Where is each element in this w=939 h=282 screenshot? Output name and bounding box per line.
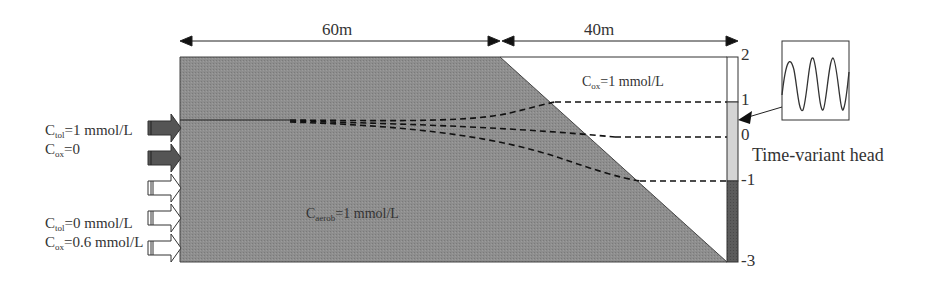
river-oxygen-label: Cox=1 mmol/L [582, 74, 664, 94]
clean-inflow-arrow [148, 204, 181, 232]
time-variant-head-inset [738, 41, 849, 124]
lower-inflow-toluene-label: Ctol=0 mmol/L [45, 215, 133, 236]
time-variant-head-caption: Time-variant head [752, 147, 884, 163]
lower-inflow-oxygen-label: Cox=0.6 mmol/L [45, 234, 143, 255]
clean-inflow-arrow [148, 234, 181, 262]
upper-inflow-toluene-label: Ctol=1 mmol/L [45, 122, 133, 143]
head-tick-0: 0 [741, 127, 750, 143]
clean-inflow-arrow [148, 174, 181, 202]
dimension-line [180, 36, 738, 46]
aquifer-concentration-label: Caerob=1 mmol/L [306, 206, 399, 226]
left-span-label: 60m [322, 22, 352, 38]
right-span-label: 40m [584, 22, 614, 38]
upper-inflow-oxygen-label: Cox=0 [45, 141, 80, 162]
contaminant-inflow-arrow [148, 144, 181, 172]
head-tick-1: 1 [741, 92, 750, 108]
head-tick-2: 2 [741, 47, 750, 63]
head-tick-minus-1: -1 [741, 172, 755, 188]
inflow-arrows [148, 114, 181, 262]
head-scale-bar [727, 57, 738, 262]
contaminant-inflow-arrow [148, 114, 181, 142]
head-tick-minus-3: -3 [741, 253, 755, 269]
